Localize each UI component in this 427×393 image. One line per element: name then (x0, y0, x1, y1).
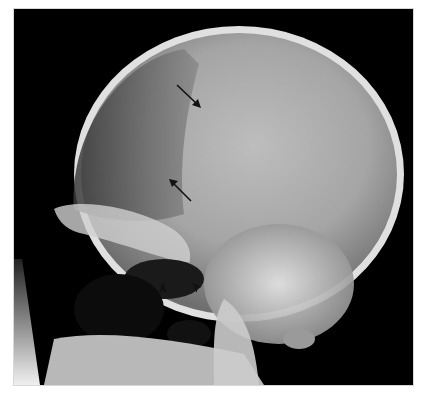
occipital-process (283, 329, 315, 349)
radiograph-frame (14, 9, 413, 385)
skull-radiograph (14, 9, 413, 385)
frontal-region (74, 49, 199, 221)
left-edge-strip (14, 259, 40, 385)
maxillary-region (74, 274, 164, 344)
